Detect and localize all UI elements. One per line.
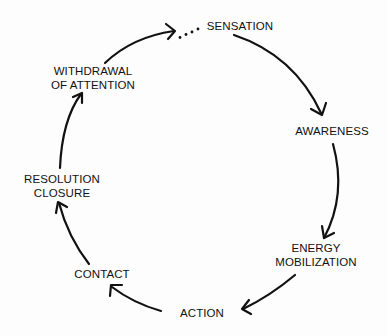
arrow-withdrawal-to-sensation: [105, 24, 175, 63]
stage-action: ACTION: [180, 306, 224, 320]
cycle-arrows: [0, 0, 387, 336]
dotted-continuation-icon: [179, 28, 200, 39]
arrow-energy-to-action: [242, 275, 295, 314]
stage-withdrawal-of-attention: WITHDRAWAL OF ATTENTION: [51, 64, 135, 92]
stage-label: CONTACT: [74, 267, 129, 281]
stage-sensation: SENSATION: [207, 19, 274, 33]
stage-label-line-2: CLOSURE: [24, 186, 100, 200]
stage-label-line-1: RESOLUTION: [24, 172, 100, 186]
arrow-action-to-contact: [110, 285, 161, 311]
stage-label: ACTION: [180, 306, 224, 320]
arrow-awareness-to-energy: [322, 144, 338, 238]
stage-label-line-2: OF ATTENTION: [51, 78, 135, 92]
stage-label: AWARENESS: [295, 124, 369, 138]
stage-label-line-2: MOBILIZATION: [275, 255, 357, 269]
stage-resolution-closure: RESOLUTION CLOSURE: [24, 172, 100, 200]
stage-awareness: AWARENESS: [295, 124, 369, 138]
cycle-diagram: SENSATION AWARENESS ENERGY MOBILIZATION …: [0, 0, 387, 336]
stage-label-line-1: ENERGY: [275, 241, 357, 255]
stage-label: SENSATION: [207, 19, 274, 33]
arrow-contact-to-resolution: [56, 202, 89, 264]
arrow-resolution-to-withdrawal: [60, 93, 82, 168]
stage-energy-mobilization: ENERGY MOBILIZATION: [275, 241, 357, 269]
stage-contact: CONTACT: [74, 267, 129, 281]
arrow-sensation-to-awareness: [234, 35, 326, 115]
stage-label-line-1: WITHDRAWAL: [51, 64, 135, 78]
